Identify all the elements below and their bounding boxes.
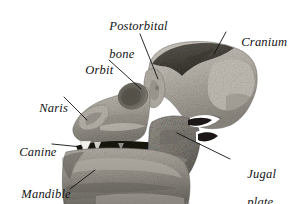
mandible-region xyxy=(62,148,190,204)
label-jugal-plate-line1: Jugal xyxy=(247,167,276,181)
label-canine-text: Canine xyxy=(19,145,56,159)
label-jugal-plate-line2: plate xyxy=(247,195,273,204)
label-jugal-plate: Jugal plate xyxy=(234,153,276,204)
label-naris-text: Naris xyxy=(39,101,68,115)
figure-container: Postorbital bone Cranium Orbit Naris Can… xyxy=(0,0,292,204)
label-mandible: Mandible xyxy=(8,175,71,204)
label-cranium-text: Cranium xyxy=(241,35,287,49)
label-postorbital-bone-line1: Postorbital xyxy=(109,19,167,33)
label-cranium: Cranium xyxy=(228,23,287,62)
label-orbit-text: Orbit xyxy=(85,63,113,77)
label-naris: Naris xyxy=(26,89,68,128)
label-mandible-text: Mandible xyxy=(21,187,71,201)
label-orbit: Orbit xyxy=(72,51,113,90)
label-canine: Canine xyxy=(6,133,57,172)
